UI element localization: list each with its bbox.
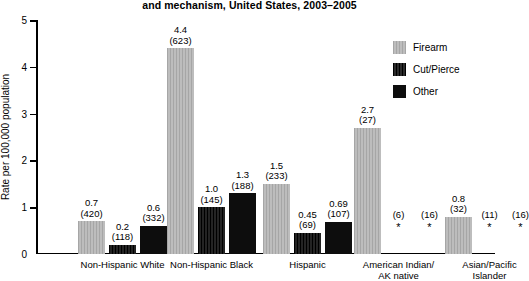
x-axis-category-label-1: Non-Hispanic Black	[170, 259, 253, 270]
legend-label-cut-pierce: Cut/Pierce	[413, 64, 460, 75]
bar-other-group-1	[229, 193, 256, 254]
legend-swatch-other-icon	[393, 85, 406, 98]
bar-firearm-group-0	[78, 221, 105, 254]
legend-label-firearm: Firearm	[413, 42, 447, 53]
y-axis-label: Rate per 100,000 population	[0, 74, 11, 200]
bar-value-label-other-group-0: 0.6(332)	[142, 203, 164, 224]
bar-other-group-0	[140, 226, 167, 254]
bar-value-label-cutpierce-group-2: 0.45(69)	[298, 210, 317, 231]
bar-other-group-2	[325, 222, 352, 254]
legend: Firearm Cut/Pierce Other	[393, 41, 460, 107]
y-axis-line	[36, 20, 38, 254]
bar-cutpierce-group-2	[294, 233, 321, 254]
legend-item-other[interactable]: Other	[393, 85, 460, 98]
bar-firearm-group-2	[263, 184, 290, 254]
legend-swatch-firearm-icon	[393, 41, 406, 54]
legend-item-firearm[interactable]: Firearm	[393, 41, 460, 54]
bar-value-label-firearm-group-0: 0.7(420)	[80, 198, 102, 219]
y-tick-label-0: 0	[21, 249, 27, 260]
bar-firearm-group-4	[445, 217, 472, 254]
bar-value-label-firearm-group-1: 4.4(623)	[169, 25, 191, 46]
bar-value-label-firearm-group-2: 1.5(233)	[265, 161, 287, 182]
bar-value-label-cutpierce-group-0: 0.2(118)	[112, 222, 133, 243]
suppressed-value-other-group-3: (16)*	[421, 210, 438, 233]
x-axis-category-label-0: Non-Hispanic White	[81, 259, 165, 270]
bar-firearm-group-3	[354, 128, 381, 254]
legend-swatch-cut-pierce-icon	[393, 63, 406, 76]
bar-value-label-cutpierce-group-1: 1.0(145)	[200, 184, 222, 205]
y-tick-label-1: 1	[21, 202, 27, 213]
x-axis-category-label-4: Asian/PacificIslander	[462, 259, 516, 281]
bar-firearm-group-1	[167, 48, 194, 254]
suppressed-value-other-group-4: (16)*	[512, 210, 529, 233]
suppressed-value-cutpierce-group-4: (11)*	[481, 210, 497, 233]
legend-label-other: Other	[413, 86, 438, 97]
bar-value-label-firearm-group-4: 0.8(32)	[450, 194, 467, 215]
bar-cutpierce-group-1	[198, 207, 225, 254]
x-axis-category-label-3: American Indian/AK native	[363, 259, 434, 281]
suppressed-value-cutpierce-group-3: (6)*	[393, 210, 405, 233]
y-tick-label-3: 3	[21, 108, 27, 119]
chart-title: and mechanism, United States, 2003–2005	[0, 0, 499, 11]
x-axis-category-label-2: Hispanic	[289, 259, 325, 270]
y-tick-label-4: 4	[21, 61, 27, 72]
bar-value-label-other-group-1: 1.3(188)	[231, 170, 253, 191]
legend-item-cut-pierce[interactable]: Cut/Pierce	[393, 63, 460, 76]
bar-cutpierce-group-0	[109, 245, 136, 254]
bar-value-label-other-group-2: 0.69(107)	[327, 199, 349, 220]
y-tick-label-2: 2	[21, 155, 27, 166]
y-tick-label-5: 5	[21, 15, 27, 26]
bar-value-label-firearm-group-3: 2.7(27)	[359, 105, 376, 126]
